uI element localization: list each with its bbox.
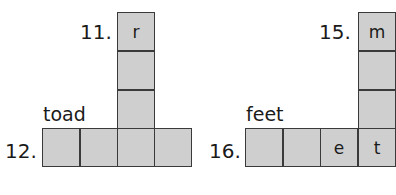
clue-number-11: 11. <box>80 22 112 42</box>
clue-number-12: 12. <box>5 141 37 161</box>
cell-12-2[interactable] <box>80 128 118 167</box>
cell-12-1[interactable] <box>42 128 80 167</box>
cell-11-1[interactable]: r <box>117 12 155 51</box>
hint-word-toad: toad <box>43 104 86 124</box>
cell-12-4[interactable] <box>154 128 192 167</box>
cell-16-3[interactable]: e <box>320 128 358 167</box>
cell-16-4[interactable]: t <box>358 128 396 167</box>
cell-15-3[interactable] <box>358 90 396 129</box>
cell-16-2[interactable] <box>283 128 321 167</box>
clue-number-16: 16. <box>209 141 241 161</box>
clue-number-15: 15. <box>319 22 351 42</box>
cell-15-1[interactable]: m <box>358 12 396 51</box>
cell-16-1[interactable] <box>245 128 283 167</box>
hint-word-feet: feet <box>246 104 284 124</box>
cell-11-3[interactable] <box>117 90 155 129</box>
cell-11-2[interactable] <box>117 51 155 90</box>
cell-12-3[interactable] <box>117 128 155 167</box>
cell-15-2[interactable] <box>358 51 396 90</box>
